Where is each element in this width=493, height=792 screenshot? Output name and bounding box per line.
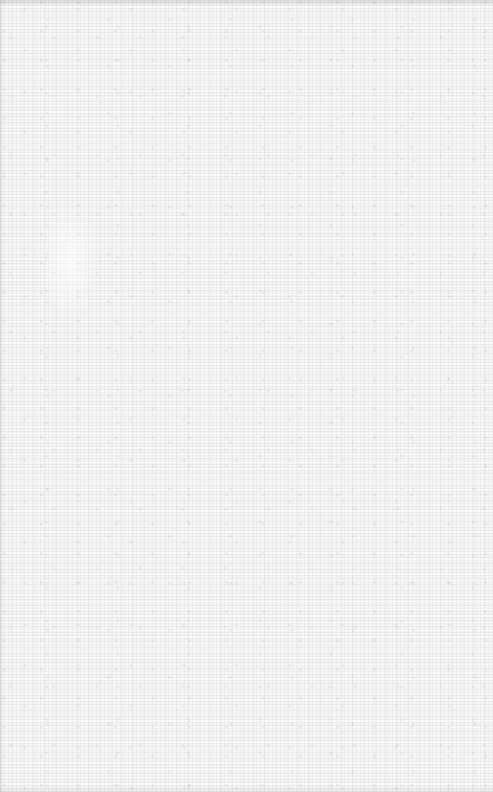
left-edge-shadow <box>0 0 4 792</box>
light-highlight <box>40 200 100 320</box>
paper-texture-speckle <box>0 0 493 792</box>
blank-textured-surface <box>0 0 493 792</box>
bottom-edge-shadow <box>0 787 493 792</box>
top-edge-shadow <box>0 0 493 6</box>
